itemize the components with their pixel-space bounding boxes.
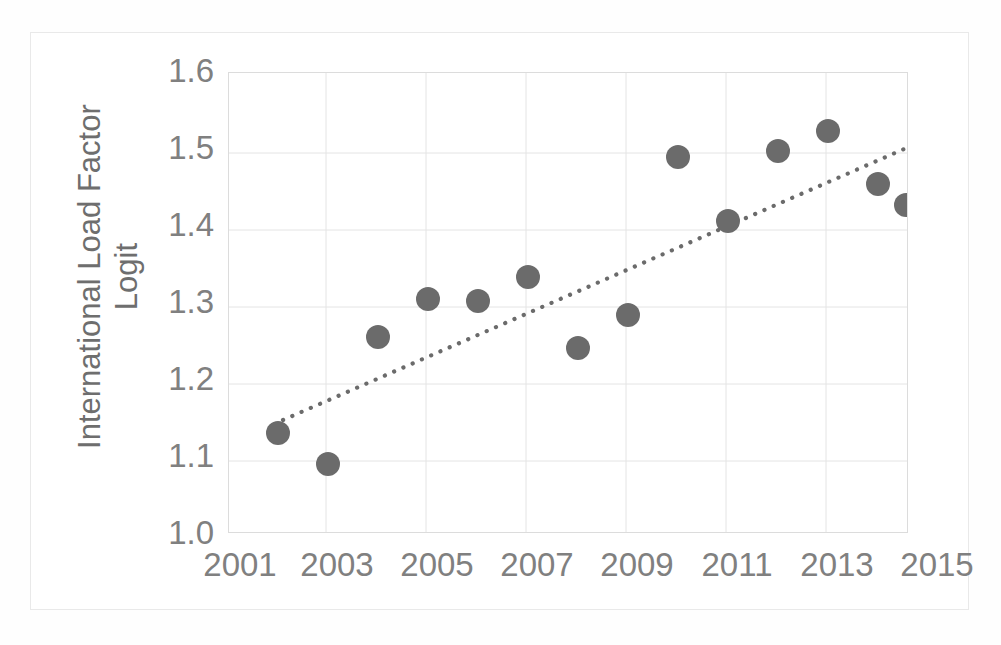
data-point-2014 (866, 172, 890, 196)
y-tick-label-1.2: 1.2 (128, 362, 214, 395)
chart-figure: International Load Factor Logit 1.6 1.5 … (0, 0, 1001, 645)
data-point-2006 (466, 289, 490, 313)
data-point-2009 (616, 303, 640, 327)
data-point-2003 (316, 452, 340, 476)
y-tick-label-1.3: 1.3 (128, 285, 214, 318)
trendline (283, 139, 907, 420)
y-tick-label-1.5: 1.5 (128, 131, 214, 164)
trendline-group (283, 139, 907, 420)
data-point-2013 (816, 119, 840, 143)
data-point-2008 (566, 336, 590, 360)
y-tick-label-1.1: 1.1 (128, 439, 214, 472)
plot-area (228, 72, 908, 533)
data-point-2011 (716, 209, 740, 233)
y-axis-tick-labels: 1.6 1.5 1.4 1.3 1.2 1.1 1.0 (118, 0, 214, 533)
plot-canvas (229, 73, 907, 532)
x-tick-label-2015: 2015 (877, 548, 997, 581)
y-tick-label-1.4: 1.4 (128, 208, 214, 241)
y-tick-label-1.6: 1.6 (128, 54, 214, 87)
horizontal-gridlines (229, 153, 907, 461)
data-point-2004 (366, 325, 390, 349)
data-point-2015 (894, 193, 907, 217)
data-point-2007 (516, 265, 540, 289)
data-point-2012 (766, 139, 790, 163)
x-axis-tick-labels: 2001 2003 2005 2007 2009 2011 2013 2015 (0, 548, 1001, 598)
y-tick-label-1.0: 1.0 (128, 516, 214, 549)
vertical-gridlines (326, 73, 826, 532)
data-point-2002 (266, 421, 290, 445)
data-point-2010 (666, 145, 690, 169)
data-point-2005 (416, 287, 440, 311)
data-markers (266, 119, 907, 476)
